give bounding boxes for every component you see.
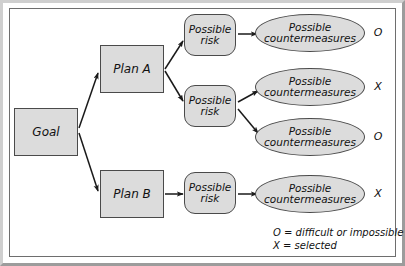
edge-goal-to-plan-a <box>79 73 98 128</box>
node-plan-b[interactable] <box>100 170 164 218</box>
edge-plan-a-to-risk-1 <box>165 41 183 69</box>
node-countermeasure-3[interactable] <box>255 118 365 156</box>
node-countermeasure-4[interactable] <box>255 175 365 213</box>
result-marker-4: X <box>370 187 386 200</box>
legend-line-difficult: O = difficult or impossible <box>273 227 403 238</box>
edge-risk-2-to-cm-3 <box>238 109 258 133</box>
edge-plan-a-to-risk-2 <box>165 71 183 101</box>
edge-risk-2-to-cm-2 <box>238 91 258 102</box>
edge-goal-to-plan-b <box>79 133 98 191</box>
node-risk-3[interactable] <box>184 172 236 214</box>
node-risk-2[interactable] <box>184 85 236 127</box>
result-marker-3: O <box>370 130 386 143</box>
node-countermeasure-1[interactable] <box>255 14 365 52</box>
diagram-canvas: Goal Plan A Plan B Possible risk Possibl… <box>0 0 405 266</box>
node-goal[interactable] <box>14 108 78 156</box>
node-risk-1[interactable] <box>184 14 236 56</box>
node-plan-a[interactable] <box>100 45 164 93</box>
legend-line-selected: X = selected <box>273 240 337 251</box>
node-countermeasure-2[interactable] <box>255 68 365 106</box>
result-marker-1: O <box>370 26 386 39</box>
result-marker-2: X <box>370 80 386 93</box>
